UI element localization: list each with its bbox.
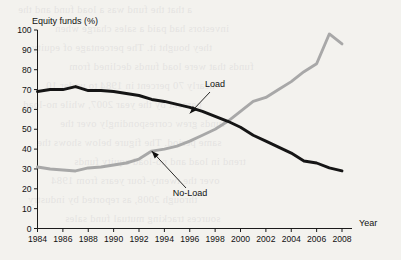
annotation-label-no-load: No-Load: [173, 188, 208, 198]
y-tick-label: 0: [27, 224, 32, 234]
x-axis-title: Year: [359, 218, 377, 228]
x-axis-ticks: 1984198619881990199219941996199820002002…: [28, 229, 352, 244]
x-tick-label: 2000: [231, 234, 250, 244]
y-tick-label: 60: [22, 105, 32, 115]
y-axis-title: Equity funds (%): [32, 16, 98, 26]
annotation-load: Load: [190, 79, 225, 113]
chart-svg: 0102030405060708090100 19841986198819901…: [0, 0, 401, 260]
y-tick-label: 20: [22, 184, 32, 194]
x-tick-label: 1998: [206, 234, 225, 244]
x-axis: 1984198619881990199219941996199820002002…: [28, 229, 352, 244]
x-tick-label: 1992: [129, 234, 148, 244]
x-tick-label: 1994: [155, 234, 174, 244]
x-tick-label: 1986: [53, 234, 72, 244]
y-tick-label: 30: [22, 164, 32, 174]
series-line-load: [38, 87, 343, 171]
y-tick-label: 100: [17, 25, 32, 35]
y-tick-label: 10: [22, 204, 32, 214]
chart-equity-funds-load-vs-noload: 0102030405060708090100 19841986198819901…: [0, 0, 401, 260]
x-tick-label: 1984: [28, 234, 47, 244]
y-axis-ticks: 0102030405060708090100: [17, 25, 37, 234]
x-tick-label: 1996: [180, 234, 199, 244]
y-axis: 0102030405060708090100: [17, 25, 37, 234]
x-tick-label: 1988: [79, 234, 98, 244]
annotation-label-load: Load: [205, 79, 225, 89]
x-tick-label: 1990: [104, 234, 123, 244]
y-tick-label: 90: [22, 45, 32, 55]
annotation-no-load: No-Load: [152, 151, 208, 198]
y-tick-label: 70: [22, 85, 32, 95]
y-tick-label: 80: [22, 65, 32, 75]
x-tick-label: 2004: [282, 234, 301, 244]
y-tick-label: 40: [22, 144, 32, 154]
x-tick-label: 2008: [332, 234, 351, 244]
x-tick-label: 2002: [256, 234, 275, 244]
x-tick-label: 2006: [307, 234, 326, 244]
y-tick-label: 50: [22, 124, 32, 134]
series-line-no-load: [38, 34, 343, 171]
